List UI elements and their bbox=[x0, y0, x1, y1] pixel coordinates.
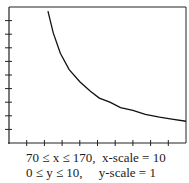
x-window-settings: 70 ≤ x ≤ 170, x-scale = 10 bbox=[26, 151, 166, 165]
function-curve bbox=[48, 11, 186, 121]
graph-window bbox=[0, 0, 189, 150]
window-frame bbox=[8, 7, 186, 144]
y-window-settings: 0 ≤ y ≤ 10, y-scale = 1 bbox=[26, 166, 156, 180]
